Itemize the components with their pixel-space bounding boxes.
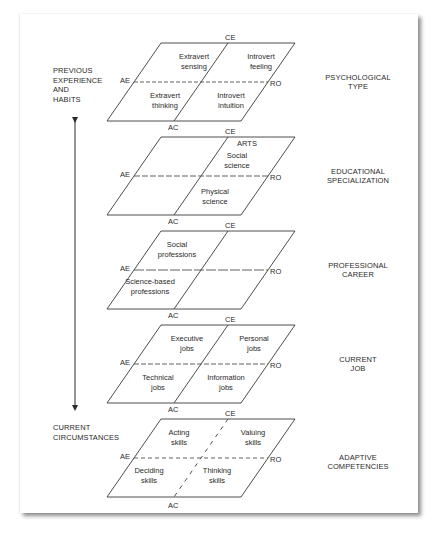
level-title-educational-specialization: EDUCATIONAL SPECIALIZATION: [308, 167, 408, 185]
axis-ac: AC: [168, 123, 178, 132]
cell-introvert-feeling: Introvert feeling: [226, 52, 296, 72]
axis-ae: AE: [120, 452, 130, 461]
cell-introvert-intuition: Introvert intuition: [196, 91, 266, 111]
cell-arts: ARTS: [212, 139, 282, 149]
cell-personal-jobs: Personal jobs: [219, 334, 289, 354]
cell-extravert-thinking: Extravert thinking: [130, 91, 200, 111]
cell-thinking-skills: Thinking skills: [182, 466, 252, 486]
cell-deciding-skills: Deciding skills: [114, 466, 184, 486]
cell-information-jobs: Information jobs: [191, 373, 261, 393]
cell-executive-jobs: Executive jobs: [152, 334, 222, 354]
level-title-current-job: CURRENT JOB: [308, 355, 408, 373]
axis-ro: RO: [270, 455, 281, 464]
axis-ae: AE: [120, 358, 130, 367]
axis-ro: RO: [270, 361, 281, 370]
axis-ae: AE: [120, 264, 130, 273]
axis-ae: AE: [120, 76, 130, 85]
level-title-professional-career: PROFESSIONAL CAREER: [308, 261, 408, 279]
cell-science-based-professions: Science-based professions: [115, 277, 185, 297]
axis-ce: CE: [225, 221, 235, 230]
axis-ce: CE: [225, 127, 235, 136]
axis-ro: RO: [270, 267, 281, 276]
cell-physical-science: Physical science: [180, 187, 250, 207]
cell-extravert-sensing: Extravert sensing: [159, 52, 229, 72]
axis-ce: CE: [225, 315, 235, 324]
axis-ce: CE: [225, 33, 235, 42]
cell-valuing-skills: Valuing skills: [218, 428, 288, 448]
axis-ce: CE: [225, 409, 235, 418]
cell-social-professions: Social professions: [142, 240, 212, 260]
level-title-psychological-type: PSYCHOLOGICAL TYPE: [308, 73, 408, 91]
axis-ae: AE: [120, 170, 130, 179]
axis-ro: RO: [270, 173, 281, 182]
axis-ac: AC: [168, 311, 178, 320]
level-title-adaptive-competencies: ADAPTIVE COMPETENCIES: [308, 453, 408, 471]
axis-ac: AC: [168, 501, 178, 510]
cell-acting-skills: Acting skills: [144, 428, 214, 448]
axis-ac: AC: [168, 405, 178, 414]
cell-technical-jobs: Technical jobs: [123, 373, 193, 393]
axis-ro: RO: [270, 79, 281, 88]
current-circumstances-label: CURRENT CIRCUMSTANCES: [53, 423, 119, 442]
cell-social-science: Social science: [202, 151, 272, 171]
previous-experience-label: PREVIOUS EXPERIENCE AND HABITS: [53, 66, 102, 104]
axis-ac: AC: [168, 217, 178, 226]
